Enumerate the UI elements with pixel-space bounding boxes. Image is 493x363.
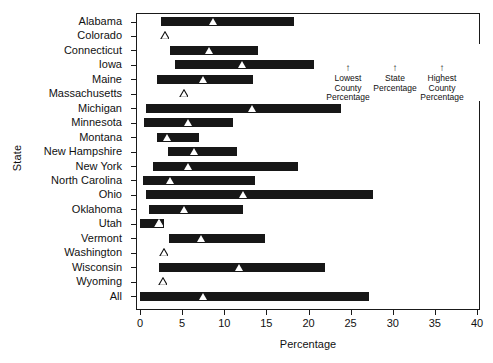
legend-caption-line: Percentage (320, 93, 376, 103)
legend-arrow-icon: ↑ (336, 63, 360, 72)
x-axis-tick (393, 310, 394, 315)
legend-arrow-icon: ↑ (383, 63, 407, 72)
x-axis-tick (224, 310, 225, 315)
x-axis-tick-label: 20 (294, 317, 324, 329)
x-axis-tick (477, 310, 478, 315)
x-axis-tick-label: 35 (420, 317, 450, 329)
x-axis-tick (140, 310, 141, 315)
x-axis-tick (266, 310, 267, 315)
x-axis-tick (351, 310, 352, 315)
x-axis-tick-label: 0 (125, 317, 155, 329)
legend-caption-line: Percentage (414, 93, 470, 103)
x-axis-tick (309, 310, 310, 315)
x-axis-tick-label: 15 (251, 317, 281, 329)
x-axis-tick (435, 310, 436, 315)
x-axis-tick-label: 25 (336, 317, 366, 329)
x-axis-tick-label: 30 (378, 317, 408, 329)
legend-arrow-icon: ↑ (430, 63, 454, 72)
x-axis-tick (182, 310, 183, 315)
scatter-range-chart: State AlabamaColoradoConnecticutIowaMain… (0, 0, 493, 363)
x-axis-tick-label: 40 (462, 317, 492, 329)
x-axis-tick-label: 5 (167, 317, 197, 329)
x-axis-title: Percentage (136, 338, 480, 350)
legend: ↑LowestCountyPercentage↑StatePercentage↑… (330, 44, 480, 101)
x-axis-tick-label: 10 (209, 317, 239, 329)
